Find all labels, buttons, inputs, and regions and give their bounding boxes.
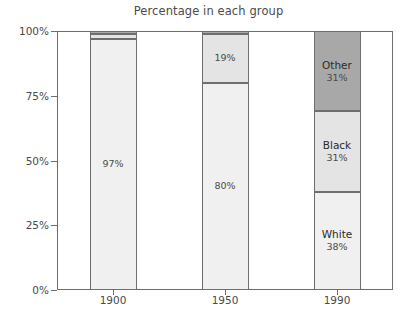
bar-segment-1990-white[interactable]: White38% <box>314 192 361 290</box>
y-tick-label-0: 0% <box>0 284 49 296</box>
segment-value-label: 38% <box>326 241 347 253</box>
bar-segment-1950-other[interactable] <box>202 31 249 34</box>
bar-segment-1990-other[interactable]: Other31% <box>314 31 361 111</box>
bar-segment-1900-other[interactable] <box>90 31 137 34</box>
bar-1900[interactable]: 97% <box>90 31 137 290</box>
chart-container: Percentage in each group 0%25%50%75%100%… <box>0 0 417 320</box>
x-tick-label-1990: 1990 <box>324 294 351 306</box>
y-axis: 0%25%50%75%100% <box>0 31 49 290</box>
bar-segment-1900-white[interactable]: 97% <box>90 39 137 290</box>
y-tick-label-25: 25% <box>0 219 49 231</box>
x-axis: 190019501990 <box>57 294 393 314</box>
bar-segment-1900-black[interactable] <box>90 34 137 39</box>
segment-value-label: 31% <box>326 72 347 84</box>
chart-title: Percentage in each group <box>0 4 417 18</box>
x-tick-label-1950: 1950 <box>212 294 239 306</box>
segment-name-label: White <box>322 228 353 241</box>
bars-layer: 97%80%19%White38%Black31%Other31% <box>57 31 393 290</box>
segment-value-label: 31% <box>326 152 347 164</box>
segment-value-label: 80% <box>214 180 235 192</box>
bar-segment-1950-white[interactable]: 80% <box>202 83 249 290</box>
bar-1990[interactable]: White38%Black31%Other31% <box>314 31 361 290</box>
y-tick-label-50: 50% <box>0 155 49 167</box>
bar-1950[interactable]: 80%19% <box>202 31 249 290</box>
segment-value-label: 97% <box>102 158 123 170</box>
bar-segment-1990-black[interactable]: Black31% <box>314 111 361 191</box>
x-tick-label-1900: 1900 <box>100 294 127 306</box>
segment-name-label: Black <box>323 139 351 152</box>
y-tick-label-100: 100% <box>0 25 49 37</box>
segment-name-label: Other <box>322 59 352 72</box>
segment-value-label: 19% <box>214 52 235 64</box>
bar-segment-1950-black[interactable]: 19% <box>202 34 249 83</box>
y-tick-label-75: 75% <box>0 90 49 102</box>
